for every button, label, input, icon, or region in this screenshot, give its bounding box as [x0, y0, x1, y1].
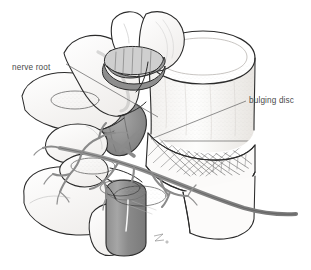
bulging-disc-label: bulging disc	[249, 96, 294, 105]
anatomical-illustration: nerve root bulging disc	[0, 0, 311, 270]
facet-joint	[102, 46, 165, 90]
artist-mark	[154, 234, 168, 243]
nerve-root-label: nerve root	[12, 63, 51, 72]
illustration-canvas: nerve root bulging disc	[0, 0, 311, 270]
